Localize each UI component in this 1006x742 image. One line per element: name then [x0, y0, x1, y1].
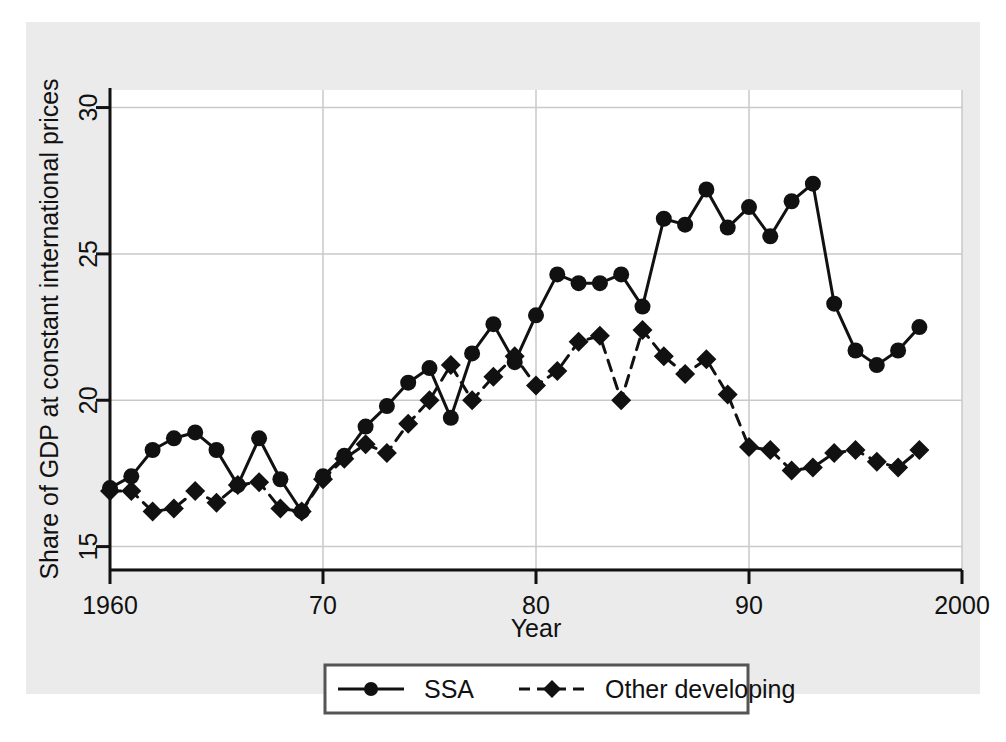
- figure-canvas: 15202530 19607080902000 Share of GDP at …: [0, 0, 1006, 742]
- data-point-marker: [677, 217, 693, 233]
- data-point-marker: [571, 275, 587, 291]
- data-point-marker: [656, 211, 672, 227]
- data-point-marker: [613, 266, 629, 282]
- data-point-marker: [272, 471, 288, 487]
- legend-marker-ssa: [364, 682, 378, 696]
- data-point-marker: [379, 398, 395, 414]
- data-point-marker: [209, 442, 225, 458]
- chart-svg: 15202530 19607080902000 Share of GDP at …: [0, 0, 1006, 742]
- data-point-marker: [166, 430, 182, 446]
- data-point-marker: [422, 360, 438, 376]
- data-point-marker: [784, 193, 800, 209]
- data-point-marker: [485, 316, 501, 332]
- x-tick-label: 1960: [82, 591, 138, 619]
- data-point-marker: [549, 266, 565, 282]
- y-axis-title: Share of GDP at constant international p…: [35, 78, 63, 579]
- data-point-marker: [400, 375, 416, 391]
- data-point-marker: [145, 442, 161, 458]
- x-tick-label: 70: [309, 591, 337, 619]
- data-point-marker: [592, 275, 608, 291]
- x-tick-label: 90: [735, 591, 763, 619]
- y-tick-label: 25: [74, 240, 102, 268]
- data-point-marker: [826, 296, 842, 312]
- y-tick-label: 30: [74, 94, 102, 122]
- y-tick-label: 15: [74, 533, 102, 561]
- legend: SSA Other developing: [325, 665, 795, 713]
- data-point-marker: [911, 319, 927, 335]
- x-axis-title: Year: [511, 614, 562, 642]
- y-tick-label: 20: [74, 386, 102, 414]
- data-point-marker: [762, 228, 778, 244]
- legend-label-ssa: SSA: [424, 675, 474, 703]
- data-point-marker: [848, 342, 864, 358]
- data-point-marker: [720, 220, 736, 236]
- data-point-marker: [805, 176, 821, 192]
- data-point-marker: [443, 410, 459, 426]
- data-point-marker: [528, 307, 544, 323]
- data-point-marker: [251, 430, 267, 446]
- data-point-marker: [464, 345, 480, 361]
- data-point-marker: [741, 199, 757, 215]
- data-point-marker: [698, 182, 714, 198]
- data-point-marker: [358, 419, 374, 435]
- data-point-marker: [890, 342, 906, 358]
- data-point-marker: [187, 424, 203, 440]
- data-point-marker: [869, 357, 885, 373]
- data-point-marker: [635, 299, 651, 315]
- x-tick-label: 2000: [934, 591, 990, 619]
- x-axis-ticks: 19607080902000: [82, 570, 990, 619]
- legend-label-other: Other developing: [605, 675, 795, 703]
